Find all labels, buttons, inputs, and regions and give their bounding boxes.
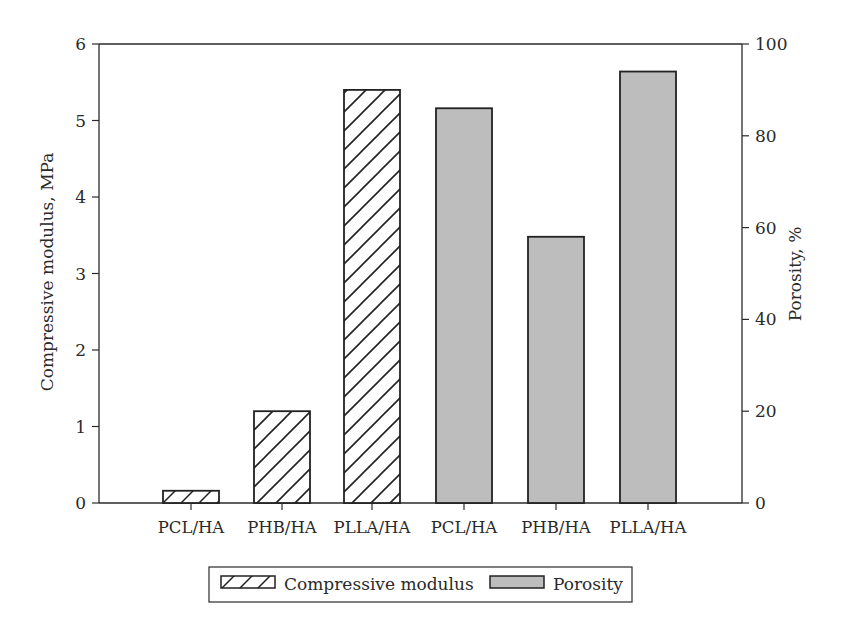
right-tick-label: 100 — [755, 34, 787, 54]
right-axis-title: Porosity, % — [785, 227, 805, 322]
legend-label-porosity: Porosity — [553, 574, 623, 594]
legend-swatch-hatch — [221, 576, 275, 588]
bar-compressive-modulus-pcl-ha — [163, 491, 219, 503]
bar-porosity-pcl-ha — [436, 108, 492, 503]
left-tick-label: 0 — [75, 493, 86, 513]
x-axis-ticks: PCL/HAPHB/HAPLLA/HAPCL/HAPHB/HAPLLA/HA — [158, 503, 688, 537]
bar-porosity-plla-ha — [620, 72, 676, 503]
left-tick-label: 2 — [75, 340, 86, 360]
right-tick-label: 40 — [755, 309, 777, 329]
right-tick-label: 20 — [755, 401, 777, 421]
left-axis-title: Compressive modulus, MPa — [37, 153, 57, 392]
category-label: PHB/HA — [247, 518, 318, 537]
legend-label-compressive-modulus: Compressive modulus — [284, 574, 474, 594]
category-label: PCL/HA — [158, 518, 226, 537]
left-tick-label: 6 — [75, 34, 86, 54]
legend-swatch-gray — [490, 576, 544, 588]
bar-porosity-phb-ha — [528, 237, 584, 503]
category-label: PCL/HA — [431, 518, 499, 537]
bars — [163, 72, 676, 503]
category-label: PLLA/HA — [334, 518, 412, 537]
right-tick-label: 0 — [755, 493, 766, 513]
category-label: PHB/HA — [521, 518, 592, 537]
left-tick-label: 3 — [75, 264, 86, 284]
legend: Compressive modulus Porosity — [209, 567, 632, 602]
left-tick-label: 4 — [75, 187, 86, 207]
category-label: PLLA/HA — [610, 518, 688, 537]
bar-chart: 0123456 020406080100 PCL/HAPHB/HAPLLA/HA… — [0, 0, 853, 626]
left-tick-label: 1 — [75, 417, 86, 437]
left-axis-ticks: 0123456 — [75, 34, 99, 513]
left-tick-label: 5 — [75, 111, 86, 131]
right-axis-ticks: 020406080100 — [742, 34, 787, 513]
right-tick-label: 80 — [755, 126, 777, 146]
bar-compressive-modulus-plla-ha — [344, 90, 400, 503]
bar-compressive-modulus-phb-ha — [254, 411, 310, 503]
right-tick-label: 60 — [755, 218, 777, 238]
